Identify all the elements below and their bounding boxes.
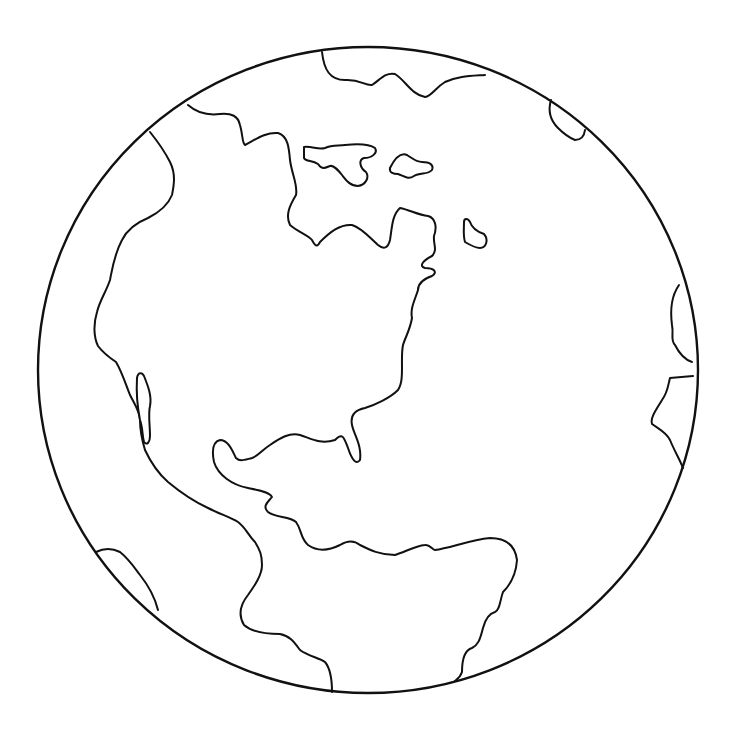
globe-drawing: [0, 0, 742, 743]
globe-outline: [38, 47, 698, 693]
globe-svg: [0, 0, 742, 743]
